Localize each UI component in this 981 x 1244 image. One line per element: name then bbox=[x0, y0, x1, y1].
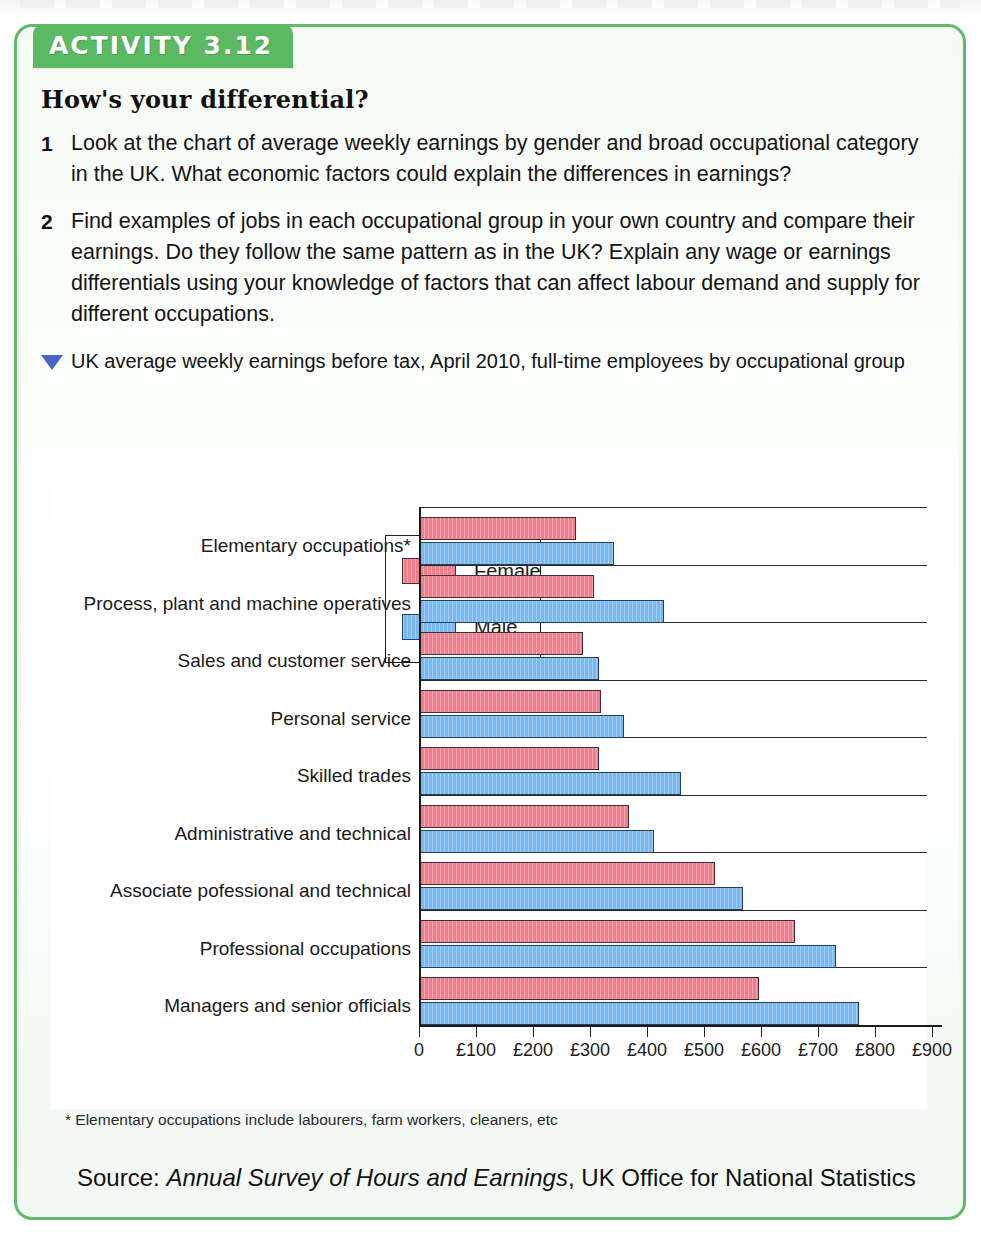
chart-x-tick-label: £500 bbox=[684, 1040, 724, 1061]
activity-content: How's your differential? 1 Look at the c… bbox=[41, 85, 941, 380]
chart-category-label: Managers and senior officials bbox=[164, 996, 411, 1016]
chart-x-tick bbox=[647, 1027, 648, 1037]
question-number: 1 bbox=[41, 128, 71, 190]
chart-bar-female bbox=[419, 517, 576, 540]
chart-bar-male bbox=[419, 945, 836, 968]
chart-bar-male bbox=[419, 887, 743, 910]
chart-bar-female bbox=[419, 747, 599, 770]
chart-category-label: Personal service bbox=[271, 709, 411, 729]
activity-title: How's your differential? bbox=[41, 85, 941, 114]
source-line: Source: Annual Survey of Hours and Earni… bbox=[77, 1162, 933, 1194]
chart-category-label: Administrative and technical bbox=[174, 824, 411, 844]
chart-x-tick-label: £100 bbox=[456, 1040, 496, 1061]
chart-x-tick-label: £600 bbox=[741, 1040, 781, 1061]
question-number: 2 bbox=[41, 206, 71, 330]
chart-x-tick bbox=[932, 1027, 933, 1037]
chart-bar-female bbox=[419, 575, 594, 598]
chart-x-tick bbox=[419, 1027, 420, 1037]
triangle-marker-icon bbox=[41, 346, 71, 376]
chart-x-tick bbox=[818, 1027, 819, 1037]
activity-tab-label: ACTIVITY 3.12 bbox=[49, 31, 273, 60]
chart-y-axis bbox=[419, 507, 421, 1025]
figure-caption-row: UK average weekly earnings before tax, A… bbox=[41, 346, 941, 376]
chart-bar-female bbox=[419, 862, 715, 885]
question-text: Find examples of jobs in each occupation… bbox=[71, 206, 941, 330]
chart-category-label: Associate pofessional and technical bbox=[110, 881, 411, 901]
chart-bar-male bbox=[419, 1002, 859, 1025]
question-item: 1 Look at the chart of average weekly ea… bbox=[41, 128, 941, 190]
chart-x-tick bbox=[761, 1027, 762, 1037]
chart-category-label: Skilled trades bbox=[297, 766, 411, 786]
chart-bar-male bbox=[419, 830, 654, 853]
chart-x-tick-group: 0£100£200£300£400£500£600£700£800£900 bbox=[51, 1027, 927, 1067]
question-list: 1 Look at the chart of average weekly ea… bbox=[41, 128, 941, 330]
chart-separator-line bbox=[419, 507, 927, 508]
chart-footnote: * Elementary occupations include laboure… bbox=[65, 1111, 558, 1129]
chart-x-tick bbox=[875, 1027, 876, 1037]
chart-plot-area: Female Male Elementary occupations*Proce… bbox=[51, 489, 927, 1109]
chart-bar-male bbox=[419, 715, 624, 738]
chart-bar-female bbox=[419, 690, 601, 713]
chart-x-tick-label: £400 bbox=[627, 1040, 667, 1061]
chart-bar-male bbox=[419, 657, 599, 680]
chart-bar-female bbox=[419, 632, 583, 655]
chart-bar-female bbox=[419, 805, 629, 828]
activity-frame: ACTIVITY 3.12 How's your differential? 1… bbox=[14, 24, 966, 1220]
chart-x-tick bbox=[590, 1027, 591, 1037]
chart-x-tick bbox=[704, 1027, 705, 1037]
chart-category-label: Elementary occupations* bbox=[201, 536, 411, 556]
source-prefix: Source: bbox=[77, 1164, 166, 1191]
chart-category-label: Sales and customer service bbox=[178, 651, 411, 671]
source-suffix: , UK Office for National Statistics bbox=[568, 1164, 916, 1191]
chart-category-label: Professional occupations bbox=[200, 939, 411, 959]
chart-bar-male bbox=[419, 600, 664, 623]
source-title: Annual Survey of Hours and Earnings bbox=[166, 1164, 568, 1191]
chart-bar-female bbox=[419, 920, 795, 943]
chart-x-tick-label: £900 bbox=[912, 1040, 952, 1061]
activity-tab: ACTIVITY 3.12 bbox=[33, 24, 293, 68]
chart-bar-male bbox=[419, 772, 681, 795]
chart-x-tick bbox=[533, 1027, 534, 1037]
scan-artifact-top bbox=[0, 0, 981, 18]
chart-panel: Female Male Elementary occupations*Proce… bbox=[51, 489, 927, 1109]
chart-x-tick bbox=[476, 1027, 477, 1037]
chart-x-tick-label: £800 bbox=[855, 1040, 895, 1061]
chart-x-tick-label: £200 bbox=[513, 1040, 553, 1061]
chart-category-label: Process, plant and machine operatives bbox=[84, 594, 411, 614]
chart-bar-female bbox=[419, 977, 759, 1000]
chart-x-tick-label: £300 bbox=[570, 1040, 610, 1061]
chart-bar-male bbox=[419, 542, 614, 565]
chart-x-tick-label: £700 bbox=[798, 1040, 838, 1061]
figure-caption: UK average weekly earnings before tax, A… bbox=[71, 346, 941, 376]
chart-x-tick-label: 0 bbox=[414, 1040, 424, 1061]
question-item: 2 Find examples of jobs in each occupati… bbox=[41, 206, 941, 330]
question-text: Look at the chart of average weekly earn… bbox=[71, 128, 941, 190]
